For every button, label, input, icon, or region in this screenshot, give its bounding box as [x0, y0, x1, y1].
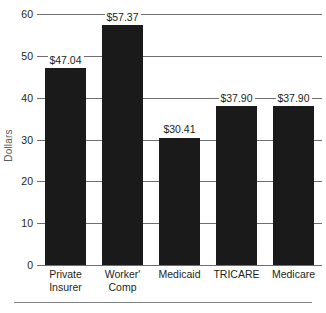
- bar[interactable]: [273, 106, 314, 265]
- y-tick-label: 40: [21, 92, 33, 103]
- category-label-line: Worker': [94, 268, 151, 281]
- category-label: Worker'Comp: [94, 268, 151, 294]
- category-label: Medicare: [265, 268, 322, 281]
- bar-value-label: $37.90: [275, 93, 311, 104]
- y-tick-label: 50: [21, 51, 33, 62]
- bar-value-label: $30.41: [161, 124, 197, 135]
- gridline: 0: [37, 265, 322, 266]
- bar[interactable]: [45, 68, 86, 265]
- bar-value-label: $57.37: [104, 12, 140, 23]
- bar-chart-figure: Dollars 0102030405060 $47.04$57.37$30.41…: [0, 0, 326, 313]
- bar[interactable]: [102, 25, 143, 265]
- bar-group[interactable]: $57.37: [102, 14, 143, 265]
- bar-group[interactable]: $47.04: [45, 14, 86, 265]
- category-axis: PrivateInsurerWorker'CompMedicaidTRICARE…: [37, 268, 322, 302]
- category-label: PrivateInsurer: [37, 268, 94, 294]
- bar-group[interactable]: $37.90: [216, 14, 257, 265]
- bar-value-label: $47.04: [47, 55, 83, 66]
- y-tick-label: 30: [21, 134, 33, 145]
- bar-value-label: $37.90: [218, 93, 254, 104]
- bar[interactable]: [216, 106, 257, 265]
- category-label: TRICARE: [208, 268, 265, 281]
- category-label-line: Comp: [94, 281, 151, 294]
- y-axis-title: Dollars: [3, 116, 14, 176]
- plot-area: 0102030405060 $47.04$57.37$30.41$37.90$3…: [37, 14, 322, 265]
- y-tick-label: 0: [27, 260, 33, 271]
- category-label: Medicaid: [151, 268, 208, 281]
- category-label-line: Insurer: [37, 281, 94, 294]
- category-label-line: Private: [37, 268, 94, 281]
- category-label-line: Medicare: [265, 268, 322, 281]
- y-tick-label: 20: [21, 176, 33, 187]
- bar-group[interactable]: $37.90: [273, 14, 314, 265]
- bar-group[interactable]: $30.41: [159, 14, 200, 265]
- category-label-line: TRICARE: [208, 268, 265, 281]
- bar[interactable]: [159, 138, 200, 265]
- bars-layer: $47.04$57.37$30.41$37.90$37.90: [37, 14, 322, 265]
- y-tick-label: 10: [21, 218, 33, 229]
- bottom-divider: [14, 302, 312, 303]
- y-tick-label: 60: [21, 9, 33, 20]
- category-label-line: Medicaid: [151, 268, 208, 281]
